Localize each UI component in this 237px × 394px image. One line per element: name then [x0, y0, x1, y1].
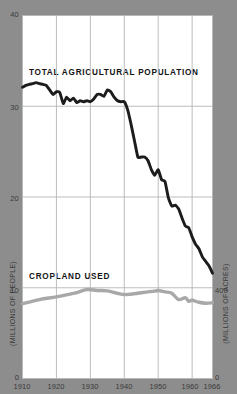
x-tick-1940: 1940	[111, 382, 137, 391]
y-tick-left-30: 30	[2, 104, 19, 112]
x-tick-1966: 1966	[199, 382, 225, 391]
series-label-population: TOTAL AGRICULTURAL POPULATION	[29, 68, 199, 77]
series-label-cropland: CROPLAND USED	[29, 272, 110, 281]
y-axis-title-right: (MILLIONS OF ACRES)	[222, 256, 229, 352]
y-tick-left-40: 40	[2, 11, 19, 19]
y-tick-left-0: 0	[2, 374, 19, 382]
y-axis-title-left: (MILLIONS OF PEOPLE)	[9, 256, 16, 352]
x-tick-1930: 1930	[77, 382, 103, 391]
chart-figure: 40 30 20 10 0 400 0 1910 1920 1930 1940 …	[0, 0, 237, 394]
x-tick-1920: 1920	[43, 382, 69, 391]
y-tick-right-0: 0	[215, 374, 235, 382]
x-tick-1910: 1910	[9, 382, 35, 391]
y-tick-left-20: 20	[2, 195, 19, 203]
x-tick-1950: 1950	[145, 382, 171, 391]
